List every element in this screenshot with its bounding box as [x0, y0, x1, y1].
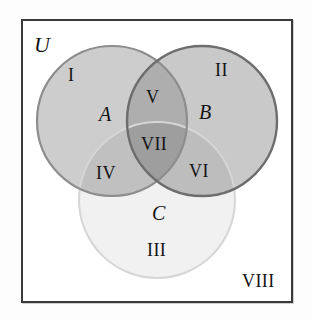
- set-b-label: B: [199, 102, 211, 122]
- venn-circles-group: [21, 19, 293, 303]
- region-ii-label: II: [215, 61, 228, 79]
- region-vi-label: VI: [189, 162, 209, 180]
- region-i-label: I: [68, 66, 74, 84]
- region-v-label: V: [146, 88, 159, 106]
- region-iii-label: III: [147, 241, 166, 259]
- universe-label: U: [34, 34, 50, 56]
- region-viii-label: VIII: [242, 272, 275, 290]
- region-vii-label: VII: [141, 135, 167, 153]
- region-iv-label: IV: [96, 164, 116, 182]
- venn-diagram-figure: U I II V VII IV VI III VIII A B C: [0, 0, 313, 319]
- set-c-label: C: [152, 203, 165, 223]
- set-a-label: A: [99, 104, 111, 124]
